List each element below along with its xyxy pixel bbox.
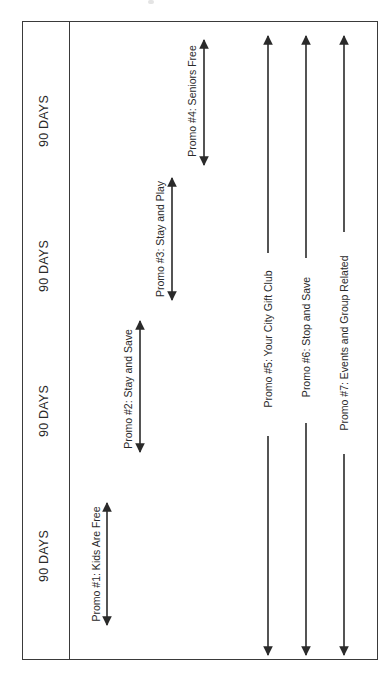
- promo-7-label: Promo #7: Events and Group Related: [338, 255, 350, 430]
- promo-1-label: Promo #1: Kids Are Free: [90, 507, 102, 622]
- promo-5-label: Promo #5: Your City Gift Club: [262, 270, 274, 407]
- promo-6-label: Promo #6: Stop and Save: [300, 277, 312, 397]
- promo-4-label: Promo #4: Seniors Free: [186, 45, 198, 156]
- promo-3-label: Promo #3: Stay and Play: [154, 181, 166, 297]
- promo-2-label: Promo #2: Stay and Save: [122, 329, 134, 449]
